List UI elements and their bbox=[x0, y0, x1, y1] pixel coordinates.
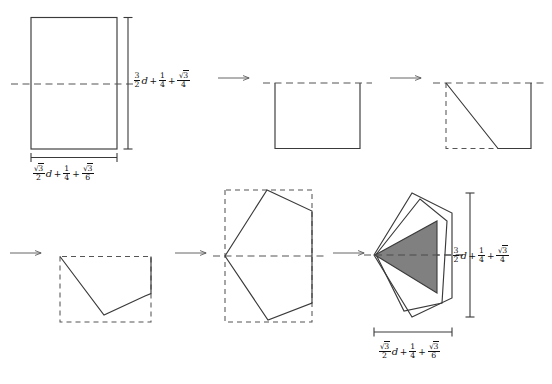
step-3-first-diagonal-cut bbox=[433, 83, 545, 149]
step-1-rectangle bbox=[11, 18, 137, 163]
width-dimension-label-step-6: √3 2 d+ 1 4 + √3 6 bbox=[378, 343, 440, 361]
plus-sign: + bbox=[52, 169, 63, 179]
plus-sign: + bbox=[71, 169, 82, 179]
fraction-sqrt3-over-6: √3 6 bbox=[82, 165, 94, 183]
fraction-three-halves: 3 2 bbox=[134, 72, 141, 90]
plus-sign: + bbox=[166, 76, 177, 86]
radical-icon: √3 bbox=[429, 343, 439, 351]
shaded-triangle bbox=[375, 221, 437, 293]
plus-sign: + bbox=[485, 251, 496, 261]
step-6-nested-pentagons-with-triangle bbox=[364, 193, 475, 337]
fraction-sqrt3-over-2: √3 2 bbox=[33, 165, 45, 183]
radical-icon: √3 bbox=[83, 165, 93, 173]
plus-sign: + bbox=[398, 347, 409, 357]
fraction-one-quarter: 1 4 bbox=[478, 247, 485, 265]
fraction-one-quarter: 1 4 bbox=[159, 72, 166, 90]
fraction-sqrt3-over-4: √3 4 bbox=[496, 247, 508, 265]
plus-sign: + bbox=[148, 76, 159, 86]
radical-icon: √3 bbox=[497, 247, 507, 255]
geometric-construction-figure bbox=[0, 0, 552, 384]
fraction-one-quarter: 1 4 bbox=[63, 165, 70, 183]
radical-icon: √3 bbox=[34, 165, 44, 173]
height-dimension-bar bbox=[124, 18, 133, 150]
radical-icon: √3 bbox=[380, 343, 390, 351]
variable-d: d bbox=[460, 250, 467, 261]
bounding-box-dashed bbox=[60, 257, 151, 323]
fraction-three-halves: 3 2 bbox=[453, 247, 460, 265]
width-dimension-label-step-1: √3 2 d+ 1 4 + √3 6 bbox=[32, 165, 94, 183]
rectangle-outline bbox=[31, 18, 117, 150]
fraction-one-quarter: 1 4 bbox=[409, 343, 416, 361]
pentagon-outline bbox=[225, 190, 312, 320]
height-dimension-label-step-6: 3 2 d+ 1 4 + √3 4 bbox=[452, 247, 509, 265]
fraction-sqrt3-over-4: √3 4 bbox=[177, 72, 189, 90]
plus-sign: + bbox=[417, 347, 428, 357]
height-dimension-label-step-1: 3 2 d+ 1 4 + √3 4 bbox=[133, 72, 190, 90]
radical-icon: √3 bbox=[178, 72, 188, 80]
variable-d: d bbox=[141, 75, 148, 86]
fraction-sqrt3-over-6: √3 6 bbox=[428, 343, 440, 361]
step-5-unfolded-pentagon bbox=[213, 190, 325, 322]
notched-polygon-outline bbox=[60, 257, 151, 316]
fraction-sqrt3-over-2: √3 2 bbox=[379, 343, 391, 361]
step-4-second-diagonal-cut bbox=[60, 257, 151, 323]
open-rectangle-outline bbox=[275, 83, 360, 149]
plus-sign: + bbox=[467, 251, 478, 261]
width-dimension-bar bbox=[374, 328, 452, 337]
step-2-lower-half bbox=[263, 83, 372, 149]
trapezoid-outline bbox=[446, 83, 531, 149]
width-dimension-bar bbox=[31, 153, 117, 162]
